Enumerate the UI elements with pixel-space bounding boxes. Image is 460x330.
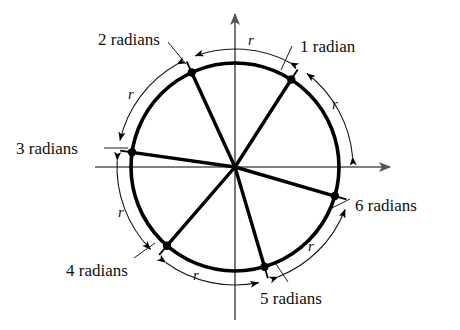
axes-group [95, 14, 390, 320]
arc-span-4-to-5 [166, 263, 259, 285]
radius-line-5-radians [235, 167, 265, 267]
arc-span-1-to-2 [195, 49, 290, 63]
arc-label-r-4: r [118, 205, 124, 220]
leader-1-radian [281, 46, 292, 70]
label-6-radians: 6 radians [355, 197, 417, 214]
label-2-radians: 2 radians [98, 31, 160, 48]
radius-line-3-radians [132, 152, 235, 167]
leader-4-radians [134, 243, 155, 258]
label-1-radian: 1 radian [300, 38, 355, 55]
radius-line-4-radians [167, 167, 235, 246]
arc-label-r-5: r [193, 268, 199, 283]
figure-canvas [0, 0, 460, 330]
radii-group [132, 72, 335, 266]
point-6-radians [331, 192, 339, 200]
arc-span-2-to-3 [120, 64, 177, 140]
leader-2-radians [168, 42, 186, 64]
radius-line-2-radians [192, 72, 235, 167]
point-5-radians [260, 263, 268, 271]
arc-label-r-3: r [332, 97, 338, 112]
arc-label-r-2: r [128, 87, 134, 102]
arc-label-r-1: r [248, 33, 254, 48]
label-4-radians: 4 radians [66, 262, 128, 279]
label-5-radians: 5 radians [260, 290, 322, 307]
label-3-radians: 3 radians [16, 140, 78, 157]
radian-circle-figure: 1 radian 2 radians 3 radians 4 radians 5… [0, 0, 460, 330]
arc-span-0-to-1 [307, 73, 353, 157]
radius-line-6-radians [235, 167, 335, 196]
radius-line-1-radian [235, 79, 291, 167]
point-2-radians [188, 68, 196, 76]
arc-label-r-6: r [308, 239, 314, 254]
point-1-radian [287, 75, 295, 83]
point-4-radians [163, 242, 171, 250]
point-3-radians [128, 148, 136, 156]
